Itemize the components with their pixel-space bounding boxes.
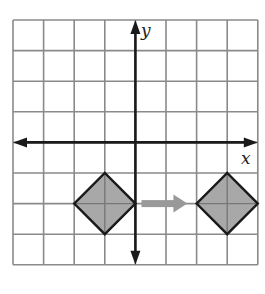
arrow-head <box>173 195 187 213</box>
x-axis-left-arrow-icon <box>13 137 27 147</box>
translation-arrow <box>142 195 188 213</box>
coordinate-grid-diagram: x y <box>0 0 265 294</box>
y-axis-up-arrow-icon <box>130 20 140 34</box>
y-axis-label: y <box>140 20 151 40</box>
arrow-shaft <box>142 200 176 207</box>
x-axis-right-arrow-icon <box>244 137 258 147</box>
x-axis-label: x <box>241 148 251 168</box>
y-axis-down-arrow-icon <box>130 251 140 265</box>
